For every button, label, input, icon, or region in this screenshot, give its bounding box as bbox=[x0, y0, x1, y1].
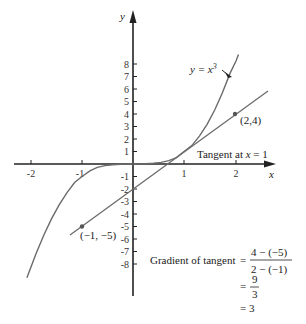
x-tick-label: 2 bbox=[234, 168, 239, 179]
y-tick-label: 6 bbox=[124, 84, 129, 95]
y-tick-label: -4 bbox=[121, 209, 129, 220]
x-tick-label: 1 bbox=[182, 168, 187, 179]
y-tick-label: -6 bbox=[121, 234, 129, 245]
curve-label: y = x3 bbox=[189, 62, 217, 75]
y-tick-label: -5 bbox=[121, 221, 129, 232]
x-axis-arrow-icon bbox=[264, 161, 276, 168]
x-axis-label: x bbox=[268, 168, 274, 180]
y-tick-label: 3 bbox=[124, 121, 129, 132]
fraction2-numerator: 9 bbox=[252, 273, 258, 285]
y-tick-label: 5 bbox=[124, 96, 129, 107]
y-tick-label: 2 bbox=[124, 134, 129, 145]
equals-sign: = bbox=[240, 280, 246, 292]
y-tick-label: 4 bbox=[124, 109, 129, 120]
y-axis-arrow-icon bbox=[130, 10, 137, 23]
gradient-prefix: Gradient of tangent bbox=[150, 254, 236, 266]
tangent-diagram: -2 -1 1 2 x y 1 2 3 bbox=[0, 0, 306, 324]
y-tick-label: 8 bbox=[124, 59, 129, 70]
x-axis: -2 -1 1 2 x bbox=[14, 160, 276, 180]
tangent-line bbox=[70, 91, 268, 235]
gradient-calculation: Gradient of tangent = 4 − (−5) 2 − (−1) … bbox=[150, 246, 292, 314]
y-tick-label: -7 bbox=[121, 246, 129, 257]
fraction2-denominator: 3 bbox=[252, 288, 258, 300]
gradient-result: = 3 bbox=[240, 302, 255, 314]
point-marker-2-4 bbox=[233, 112, 237, 116]
y-axis-label: y bbox=[119, 10, 125, 22]
tangent-label: Tangent at x = 1 bbox=[197, 148, 268, 160]
y-tick-label: -8 bbox=[121, 259, 129, 270]
y-tick-label: 1 bbox=[124, 146, 129, 157]
y-tick-label: 7 bbox=[124, 71, 129, 82]
y-tick-label: -1 bbox=[121, 171, 129, 182]
point-label: (2,4) bbox=[240, 114, 261, 127]
equals-sign: = bbox=[240, 254, 246, 266]
x-tick-label: -2 bbox=[27, 168, 35, 179]
point-label: (−1, −5) bbox=[80, 229, 117, 242]
fraction1-numerator: 4 − (−5) bbox=[251, 246, 288, 259]
y-axis: y 1 2 3 4 5 6 7 8 -1 -2 -3 bbox=[119, 10, 137, 296]
